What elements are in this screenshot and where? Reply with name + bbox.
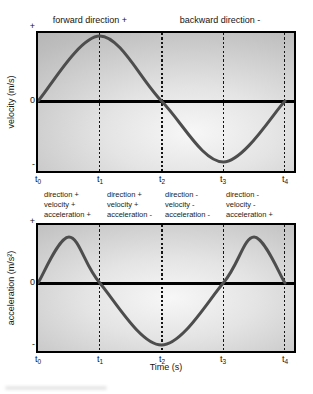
acceleration-plus-label: + [24,216,35,226]
backward-direction-label: backward direction - [160,15,280,25]
acceleration-plot [36,223,296,353]
annotation-interval-4: direction - velocity - acceleration + [226,190,288,220]
annotation-interval-1: direction + velocity + acceleration + [44,190,106,220]
acceleration-axis-label: acceleration (m/s²) [6,236,16,340]
velocity-tick-t0: t0 [29,174,47,184]
forward-direction-label: forward direction + [30,15,150,25]
velocity-curve [38,33,294,171]
acceleration-curve [38,225,294,351]
watermark-smudge [5,386,107,390]
velocity-tick-t3: t3 [214,174,232,184]
velocity-tick-t4: t4 [276,174,294,184]
velocity-plot [36,31,296,173]
acceleration-minus-label: - [24,339,35,349]
velocity-plus-label: + [24,21,35,31]
annotation-interval-3: direction - velocity - acceleration - [165,190,227,220]
annotation-interval-2: direction + velocity + acceleration - [107,190,169,220]
velocity-zero-label: 0 [24,95,35,105]
velocity-axis-label: velocity (m/s) [6,62,16,142]
velocity-tick-t2: t2 [153,174,171,184]
velocity-minus-label: - [24,159,35,169]
velocity-tick-t1: t1 [91,174,109,184]
time-axis-label: Time (s) [38,362,294,372]
physics-motion-figure: forward direction + backward direction -… [0,0,313,394]
acceleration-zero-label: 0 [24,277,35,287]
